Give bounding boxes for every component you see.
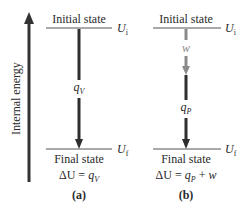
internal-energy-diagram: Internal energy Initial state Ui qV Uf F…	[0, 0, 251, 210]
panel-b-heat-label: qP	[181, 100, 192, 116]
panel-a-caption: (a)	[72, 188, 86, 202]
axis-label: Internal energy	[9, 62, 23, 135]
panel-b-heat-arrowhead-icon	[182, 139, 190, 149]
panel-a-initial-state-label: Initial state	[52, 12, 106, 26]
panel-b-final-state-label: Final state	[161, 152, 211, 166]
panel-a: Initial state Ui qV Uf Final state ΔU = …	[46, 12, 129, 202]
axis-arrowhead-icon	[24, 12, 34, 24]
panel-b-work-label: w	[182, 41, 190, 55]
panel-a-heat-label: qV	[74, 80, 86, 96]
panel-b-equation: ΔU = qP + w	[156, 168, 217, 184]
panel-a-u-initial: Ui	[117, 21, 129, 37]
panel-b-caption: (b)	[179, 188, 194, 202]
panel-a-equation: ΔU = qV	[59, 168, 100, 184]
panel-b-u-final: Uf	[225, 142, 237, 158]
panel-a-u-final: Uf	[117, 142, 129, 158]
panel-b: Initial state Ui w qP Uf Final state ΔU …	[153, 12, 237, 202]
panel-b-initial-state-label: Initial state	[159, 12, 213, 26]
panel-a-final-state-label: Final state	[54, 152, 104, 166]
panel-b-work-arrowhead-icon	[182, 66, 190, 75]
panel-a-heat-arrowhead-icon	[75, 139, 83, 149]
panel-b-u-initial: Ui	[225, 21, 237, 37]
internal-energy-axis: Internal energy	[9, 12, 34, 182]
